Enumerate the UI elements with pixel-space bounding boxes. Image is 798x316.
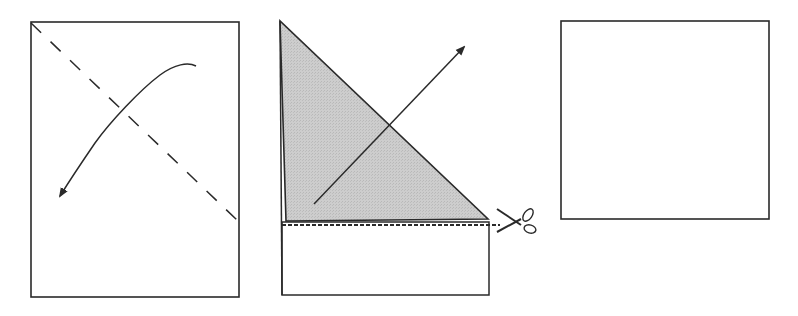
step-2 (280, 21, 537, 295)
shaded-folded-triangle (280, 21, 488, 221)
scissors-icon (497, 207, 537, 234)
folding-diagram (0, 0, 798, 316)
step-1 (31, 22, 239, 297)
remaining-strip (282, 222, 489, 295)
square-sheet (561, 21, 769, 219)
step-3 (561, 21, 769, 219)
rectangle-sheet (31, 22, 239, 297)
